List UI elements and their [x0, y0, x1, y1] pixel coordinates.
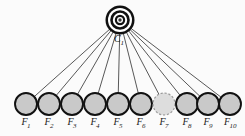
- leaf-node-f5[interactable]: [107, 93, 129, 115]
- leaf-node-f9[interactable]: [197, 93, 219, 115]
- leaf-label-f4-subscript: 4: [96, 122, 100, 130]
- leaf-circle-f8: [176, 93, 198, 115]
- leaf-node-f4[interactable]: [84, 93, 106, 115]
- edge-group: [34, 28, 222, 98]
- leaf-circle-f3: [61, 93, 83, 115]
- cluster-diagram: C1F1F2F3F4F5F6F7F8F9F10: [0, 0, 245, 136]
- leaf-label-f2-subscript: 2: [50, 122, 54, 130]
- leaf-node-f2[interactable]: [38, 93, 60, 115]
- cluster-ring-7: [118, 18, 121, 21]
- leaf-label-f9-subscript: 9: [209, 122, 213, 130]
- leaf-circle-f2: [38, 93, 60, 115]
- leaf-node-f1[interactable]: [15, 93, 37, 115]
- leaf-circle-f9: [197, 93, 219, 115]
- leaf-node-f6[interactable]: [130, 93, 152, 115]
- edge-c1-to-f2: [56, 30, 112, 96]
- leaf-circle-f6: [130, 93, 152, 115]
- leaf-label-f1-subscript: 1: [27, 122, 31, 130]
- leaf-circle-f5: [107, 93, 129, 115]
- leaf-circle-f4: [84, 93, 106, 115]
- leaf-node-f10[interactable]: [219, 93, 241, 115]
- leaf-label-f10-subscript: 10: [230, 122, 238, 130]
- edge-c1-to-f10: [130, 28, 221, 98]
- cluster-node-c1[interactable]: [106, 6, 135, 35]
- leaf-circle-f7: [153, 93, 175, 115]
- leaf-label-f7-subscript: 7: [165, 122, 169, 130]
- edge-c1-to-f9: [129, 29, 200, 97]
- leaf-circle-f1: [15, 93, 37, 115]
- cluster-label-c1-subscript: 1: [121, 39, 125, 47]
- leaf-circle-f10: [219, 93, 241, 115]
- leaf-label-f5-subscript: 5: [119, 122, 123, 130]
- leaf-label-f6-subscript: 6: [142, 122, 146, 130]
- leaf-node-f8[interactable]: [176, 93, 198, 115]
- edge-c1-to-f3: [77, 31, 113, 95]
- leaf-label-f3-subscript: 3: [72, 122, 77, 130]
- leaf-node-f3[interactable]: [61, 93, 83, 115]
- figure-container: C1F1F2F3F4F5F6F7F8F9F10: [0, 0, 245, 136]
- leaf-label-f8-subscript: 8: [188, 122, 192, 130]
- edge-c1-to-f1: [34, 29, 110, 97]
- leaf-node-f7[interactable]: [153, 93, 175, 115]
- edge-c1-to-f6: [123, 33, 138, 94]
